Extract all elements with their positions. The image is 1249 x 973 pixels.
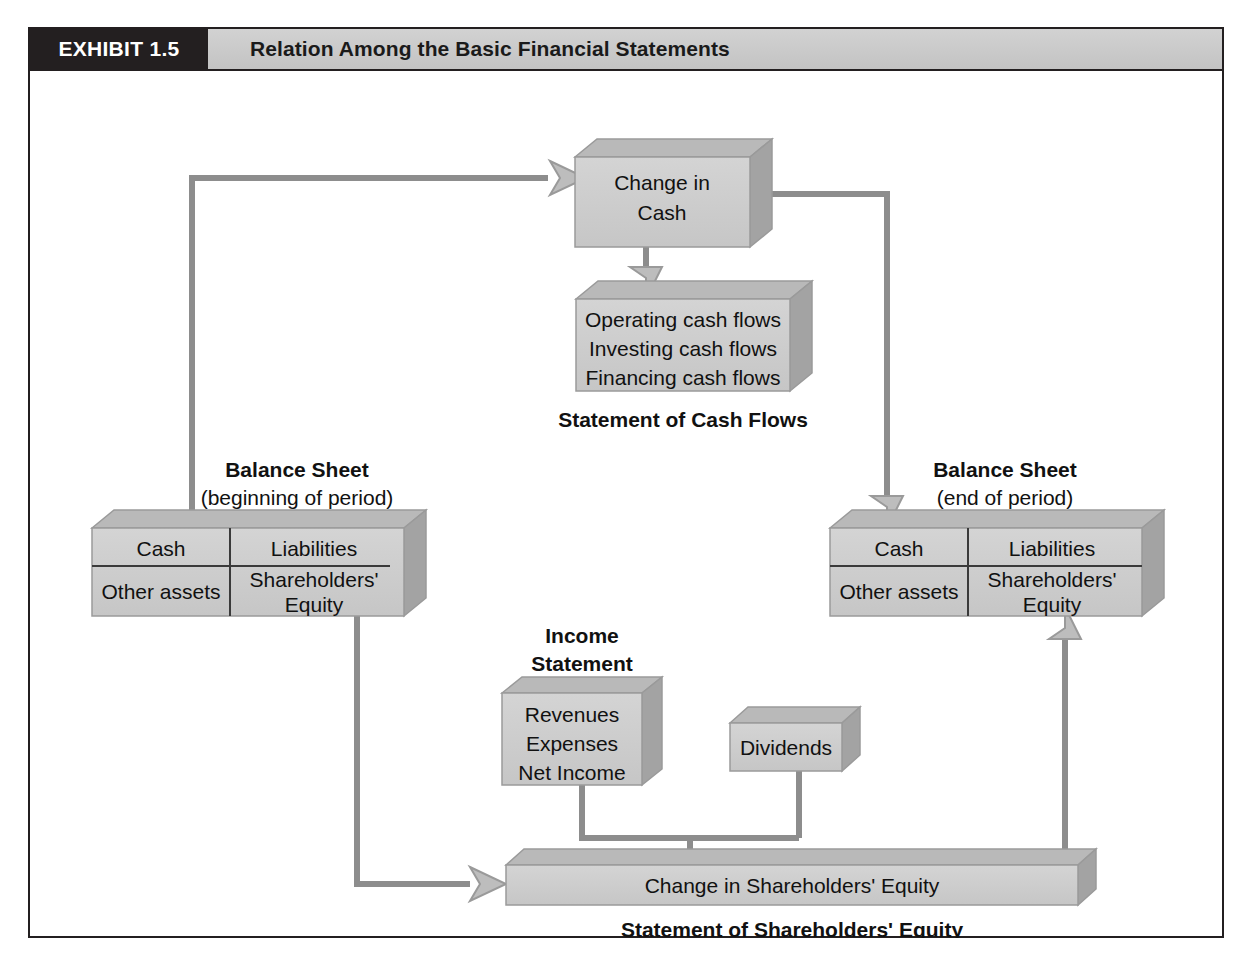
income-statement-caption-line-2: Statement — [531, 652, 633, 675]
dividends-top-bevel — [730, 707, 860, 723]
exhibit-number-tag: EXHIBIT 1.5 — [30, 29, 208, 69]
change-in-cash-line-2: Cash — [637, 201, 686, 224]
balance-sheet-end-equity-line-1: Shareholders' — [988, 568, 1117, 591]
balance-sheet-beginning-equity-line-2: Equity — [285, 593, 344, 616]
balance-sheet-end-side-bevel — [1142, 510, 1164, 616]
diagram-canvas: Change in Cash Operating cash flows Inve… — [30, 71, 1222, 938]
balance-sheet-beginning-side-bevel — [404, 510, 426, 616]
balance-sheet-end-other-assets: Other assets — [839, 580, 958, 603]
balance-sheet-end-cash: Cash — [874, 537, 923, 560]
change-in-cash-line-1: Change in — [614, 171, 710, 194]
financial-statements-flow-diagram: Change in Cash Operating cash flows Inve… — [30, 71, 1222, 938]
income-statement-line-3: Net Income — [518, 761, 625, 784]
node-income-statement[interactable]: Income Statement Revenues Expenses Net I… — [502, 624, 662, 785]
running-head — [0, 0, 1249, 14]
node-balance-sheet-end[interactable]: Balance Sheet (end of period) Cash Liabi… — [830, 458, 1164, 616]
exhibit-title: Relation Among the Basic Financial State… — [208, 29, 1222, 69]
arrowhead-into-change-in-equity-left — [470, 867, 506, 901]
income-statement-side-bevel — [642, 677, 662, 785]
change-in-equity-label: Change in Shareholders' Equity — [645, 874, 940, 897]
balance-sheet-beginning-caption: Balance Sheet — [225, 458, 369, 481]
balance-sheet-beginning-top-bevel — [92, 510, 426, 528]
exhibit-page: EXHIBIT 1.5 Relation Among the Basic Fin… — [0, 0, 1249, 973]
cash-flows-top-bevel — [576, 281, 812, 299]
balance-sheet-end-equity-line-2: Equity — [1023, 593, 1082, 616]
connector-change-in-equity-to-end-equity — [827, 639, 1065, 884]
balance-sheet-beginning-cash: Cash — [136, 537, 185, 560]
cash-flows-side-bevel — [790, 281, 812, 391]
change-in-cash-top-bevel — [575, 139, 772, 157]
node-cash-flows[interactable]: Operating cash flows Investing cash flow… — [558, 281, 812, 431]
exhibit-frame: EXHIBIT 1.5 Relation Among the Basic Fin… — [28, 27, 1224, 938]
balance-sheet-beginning-subcaption: (beginning of period) — [201, 486, 394, 509]
income-statement-top-bevel — [502, 677, 662, 693]
balance-sheet-beginning-equity-line-1: Shareholders' — [250, 568, 379, 591]
income-statement-line-2: Expenses — [526, 732, 618, 755]
change-in-cash-side-bevel — [750, 139, 772, 247]
balance-sheet-end-top-bevel — [830, 510, 1164, 528]
node-change-in-cash[interactable]: Change in Cash — [575, 139, 772, 247]
cash-flows-line-1: Operating cash flows — [585, 308, 781, 331]
balance-sheet-beginning-other-assets: Other assets — [101, 580, 220, 603]
node-balance-sheet-beginning[interactable]: Balance Sheet (beginning of period) Cash… — [92, 458, 426, 616]
change-in-equity-top-bevel — [506, 849, 1096, 865]
exhibit-header: EXHIBIT 1.5 Relation Among the Basic Fin… — [30, 29, 1222, 71]
cash-flows-line-2: Investing cash flows — [589, 337, 777, 360]
income-statement-line-1: Revenues — [525, 703, 620, 726]
balance-sheet-end-liabilities: Liabilities — [1009, 537, 1095, 560]
change-in-equity-caption: Statement of Shareholders' Equity — [621, 918, 964, 938]
node-change-in-equity[interactable]: Change in Shareholders' Equity Statement… — [506, 849, 1096, 938]
connector-income-statement-to-junction — [582, 784, 799, 838]
balance-sheet-end-caption: Balance Sheet — [933, 458, 1077, 481]
connector-begin-equity-to-change-in-equity — [357, 616, 470, 884]
cash-flows-caption: Statement of Cash Flows — [558, 408, 808, 431]
node-dividends[interactable]: Dividends — [730, 707, 860, 771]
balance-sheet-end-subcaption: (end of period) — [937, 486, 1074, 509]
cash-flows-line-3: Financing cash flows — [586, 366, 781, 389]
dividends-label: Dividends — [740, 736, 832, 759]
income-statement-caption-line-1: Income — [545, 624, 619, 647]
balance-sheet-beginning-liabilities: Liabilities — [271, 537, 357, 560]
